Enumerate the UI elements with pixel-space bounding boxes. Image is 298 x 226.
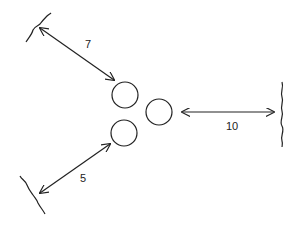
arrow-bottom-left <box>40 144 110 193</box>
boundary-right <box>281 82 283 147</box>
diagram-canvas: 7 10 5 <box>0 0 298 226</box>
circle-bottom <box>111 120 137 146</box>
diagram-svg <box>0 0 298 226</box>
distance-label-bottom-left: 5 <box>80 173 86 184</box>
circle-right <box>146 99 172 125</box>
boundary-top-left <box>26 13 51 42</box>
distance-label-top-left: 7 <box>85 39 91 50</box>
distance-label-right: 10 <box>226 121 238 132</box>
circle-top <box>112 82 138 108</box>
boundary-bottom-left <box>20 176 45 214</box>
arrow-top-left <box>40 28 114 80</box>
